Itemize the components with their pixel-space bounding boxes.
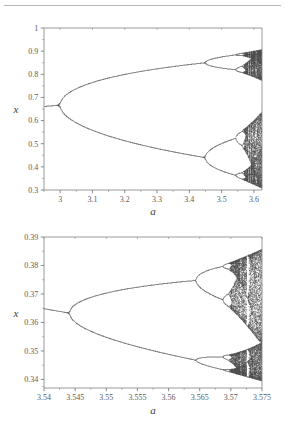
bifurcation-overview-figure: 0.30.40.50.60.70.80.9133.13.23.33.43.53.…	[0, 12, 285, 224]
bifurcation-zoom-plot: 0.340.350.360.370.380.393.543.5453.553.5…	[0, 224, 285, 447]
axes-frame	[44, 237, 262, 388]
x-tick-label: 3.6	[249, 195, 259, 204]
x-tick-label: 3.1	[87, 195, 97, 204]
x-tick-label: 3.55	[99, 393, 113, 402]
y-tick-label: 0.5	[28, 140, 38, 149]
x-axis-label: a	[150, 205, 156, 217]
data-points-group	[44, 49, 263, 188]
y-tick-label: 0.8	[28, 70, 38, 79]
y-tick-label: 1	[34, 24, 38, 33]
y-tick-label: 0.7	[28, 93, 38, 102]
x-tick-label: 3.4	[184, 195, 194, 204]
top-divider-rule	[4, 5, 281, 6]
x-axis-label: a	[150, 404, 156, 416]
figure-page: 0.30.40.50.60.70.80.9133.13.23.33.43.53.…	[0, 0, 285, 447]
x-tick-label: 3.54	[37, 393, 51, 402]
y-tick-label: 0.9	[28, 47, 38, 56]
bifurcation-overview-plot: 0.30.40.50.60.70.80.9133.13.23.33.43.53.…	[0, 12, 285, 224]
axes-frame	[44, 28, 262, 190]
x-tick-label: 3.57	[224, 393, 238, 402]
x-tick-label: 3.2	[120, 195, 130, 204]
data-points-group	[44, 249, 263, 381]
y-axis-label: x	[13, 307, 19, 319]
x-tick-label: 3.555	[128, 393, 146, 402]
y-tick-label: 0.39	[24, 233, 38, 242]
y-tick-label: 0.3	[28, 186, 38, 195]
y-tick-label: 0.6	[28, 116, 38, 125]
bifurcation-zoom-figure: 0.340.350.360.370.380.393.543.5453.553.5…	[0, 224, 285, 447]
y-axis-label: x	[13, 103, 19, 115]
y-tick-label: 0.36	[24, 318, 38, 327]
x-tick-label: 3.3	[152, 195, 162, 204]
x-tick-label: 3.575	[253, 393, 271, 402]
x-tick-label: 3.545	[66, 393, 84, 402]
x-tick-label: 3.5	[217, 195, 227, 204]
x-tick-label: 3.565	[191, 393, 209, 402]
y-tick-label: 0.37	[24, 290, 38, 299]
y-tick-label: 0.35	[24, 347, 38, 356]
x-tick-label: 3	[58, 195, 62, 204]
x-tick-label: 3.56	[162, 393, 176, 402]
y-tick-label: 0.38	[24, 261, 38, 270]
y-tick-label: 0.34	[24, 375, 38, 384]
y-tick-label: 0.4	[28, 163, 38, 172]
